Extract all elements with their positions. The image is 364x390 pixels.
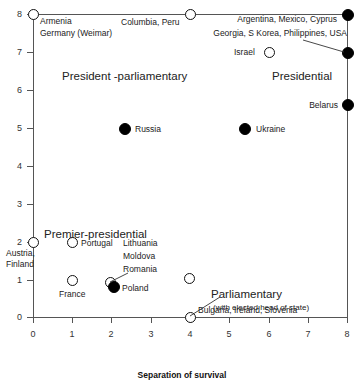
- point-armenia-germany[interactable]: [28, 9, 39, 20]
- point-russia[interactable]: [119, 123, 131, 135]
- y-tick-1: [27, 280, 34, 281]
- point-belarus[interactable]: [342, 99, 354, 111]
- point-israel[interactable]: [264, 47, 275, 58]
- y-tick-label-5: 5: [4, 123, 22, 133]
- y-tick-label-7: 7: [4, 47, 22, 57]
- x-tick-label-0: 0: [25, 329, 41, 339]
- y-tick-5: [27, 128, 34, 129]
- x-tick-label-2: 2: [103, 329, 119, 339]
- x-tick-3: [151, 317, 152, 323]
- quadrant-label-presidential: Presidential: [272, 70, 332, 82]
- y-tick-label-4: 4: [4, 161, 22, 171]
- point-austria-finland[interactable]: [28, 237, 39, 248]
- y-tick-label-1: 1: [4, 275, 22, 285]
- plot-right-border: [347, 14, 348, 318]
- label-ukraine: Ukraine: [256, 124, 285, 135]
- x-tick-6: [269, 317, 270, 323]
- y-tick-label-2: 2: [4, 237, 22, 247]
- label-austria: Austria,: [6, 248, 35, 259]
- point-argentina-mexico-cyprus[interactable]: [342, 9, 354, 21]
- point-poland[interactable]: [108, 281, 120, 293]
- x-tick-5: [229, 317, 230, 323]
- x-tick-label-6: 6: [261, 329, 277, 339]
- point-ukraine[interactable]: [239, 123, 251, 135]
- quadrant-label-premier-presidential: Premier-presidential: [44, 228, 147, 240]
- scatter-chart: 8 7 6 5 4 3 2 1 0 0 1 2 3 4 5 6 7 8 Sepa…: [0, 0, 364, 390]
- y-tick-6: [27, 90, 34, 91]
- label-finland: Finland: [6, 259, 34, 270]
- x-tick-label-4: 4: [182, 329, 198, 339]
- leader-line-georgia-group: [300, 38, 350, 56]
- y-tick-label-6: 6: [4, 85, 22, 95]
- x-tick-0: [33, 317, 34, 323]
- y-tick-3: [27, 204, 34, 205]
- y-tick-7: [27, 52, 34, 53]
- y-tick-4: [27, 166, 34, 167]
- y-tick-label-3: 3: [4, 199, 22, 209]
- quadrant-label-president-parliamentary: President -parliamentary: [62, 70, 187, 82]
- label-armenia: Armenia: [40, 16, 72, 27]
- x-tick-label-1: 1: [64, 329, 80, 339]
- quadrant-sublabel-parliamentary: (with elected head of state): [213, 303, 309, 312]
- x-tick-1: [72, 317, 73, 323]
- point-unlabeled[interactable]: [184, 273, 195, 284]
- label-russia: Russia: [135, 124, 161, 135]
- label-belarus: Belarus: [260, 100, 338, 111]
- x-tick-2: [111, 317, 112, 323]
- x-tick-label-7: 7: [300, 329, 316, 339]
- x-tick-label-5: 5: [221, 329, 237, 339]
- y-tick-label-0: 0: [4, 312, 22, 322]
- label-israel: Israel: [234, 47, 255, 58]
- label-moldova: Moldova: [123, 251, 155, 262]
- label-argentina-mexico-cyprus: Argentina, Mexico, Cyprus: [110, 14, 337, 25]
- y-tick-label-8: 8: [4, 9, 22, 19]
- x-axis-title: Separation of survival: [0, 370, 364, 380]
- x-tick-7: [308, 317, 309, 323]
- label-france: France: [59, 289, 85, 300]
- point-france[interactable]: [67, 275, 78, 286]
- x-tick-8: [347, 317, 348, 323]
- leader-line-parliamentary: [188, 295, 224, 319]
- label-poland: Poland: [122, 283, 148, 294]
- x-tick-label-3: 3: [143, 329, 159, 339]
- x-tick-label-8: 8: [339, 329, 355, 339]
